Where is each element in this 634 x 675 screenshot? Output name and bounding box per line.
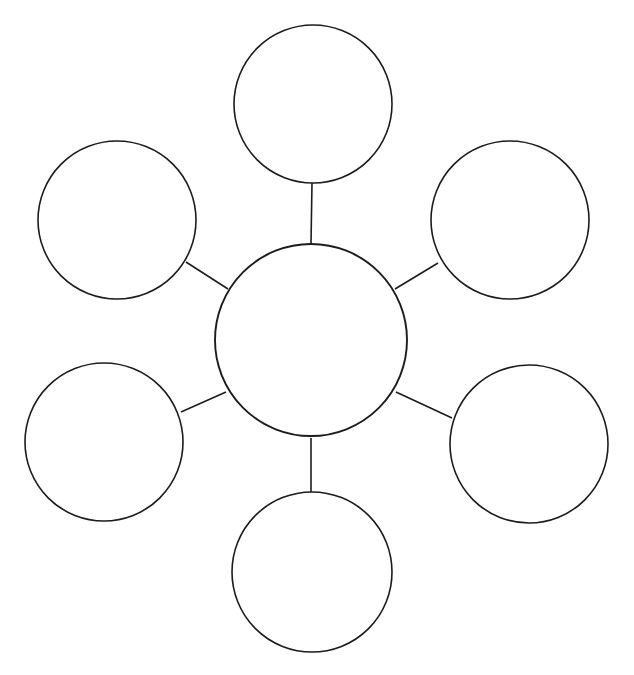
connector-center-to-top-right (395, 263, 438, 289)
node-bottom-left-circle[interactable] (25, 363, 183, 521)
node-top[interactable] (234, 25, 392, 183)
node-bottom-right-circle[interactable] (450, 365, 608, 523)
center-node-circle[interactable] (215, 244, 407, 436)
bubble-map-diagram (0, 0, 634, 675)
node-top-left[interactable] (38, 141, 196, 299)
node-top-right-circle[interactable] (431, 141, 589, 299)
node-bottom-circle[interactable] (232, 492, 392, 652)
connector-center-to-bottom-right (396, 392, 452, 418)
node-top-circle[interactable] (234, 25, 392, 183)
center-node[interactable] (215, 244, 407, 436)
bubble-map-canvas (0, 0, 634, 675)
node-top-left-circle[interactable] (38, 141, 196, 299)
connector-center-to-top-left (186, 262, 228, 289)
connector-center-to-top (311, 183, 312, 243)
node-bottom-left[interactable] (25, 363, 183, 521)
node-top-right[interactable] (431, 141, 589, 299)
connector-center-to-bottom-left (181, 392, 226, 412)
node-bottom[interactable] (232, 492, 392, 652)
node-bottom-right[interactable] (450, 365, 608, 523)
